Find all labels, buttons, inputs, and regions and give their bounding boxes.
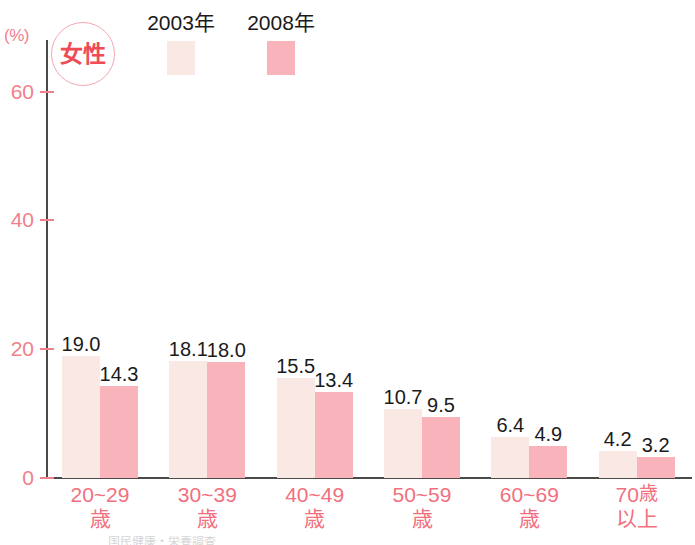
bar: 4.2 xyxy=(599,451,637,478)
category-label-line2: 歳 xyxy=(155,508,259,530)
bar: 18.0 xyxy=(207,362,245,478)
bar-group: 18.118.0 xyxy=(169,40,245,478)
category-label-line1: 40~49 xyxy=(285,483,344,506)
category-label-line2: 歳 xyxy=(477,508,581,530)
category-label-line1: 70 xyxy=(615,484,638,506)
bar: 18.1 xyxy=(169,361,207,478)
bar: 6.4 xyxy=(491,437,529,478)
bar: 9.5 xyxy=(422,417,460,478)
source-footnote: 国民健康・栄養調査 xyxy=(108,536,216,545)
legend-label-2008: 2008年 xyxy=(233,12,329,33)
chart-container: (%) 女性 2003年 2008年 0204060 19.014.318.11… xyxy=(0,0,695,545)
bar: 10.7 xyxy=(384,409,422,478)
bar: 3.2 xyxy=(637,457,675,478)
bar-value-label: 3.2 xyxy=(642,435,670,455)
bar-value-label: 19.0 xyxy=(62,334,101,354)
bar-group: 10.79.5 xyxy=(384,40,460,478)
bar-value-label: 14.3 xyxy=(100,364,139,384)
category-label-suffix: 歳 xyxy=(639,483,658,504)
category-label-line1: 50~59 xyxy=(393,483,452,506)
y-axis-tick-label: 40 xyxy=(0,209,34,230)
category-label-line2: 歳 xyxy=(48,508,152,530)
x-axis-category-label: 20~29歳 xyxy=(48,484,152,530)
x-axis-category-label: 50~59歳 xyxy=(370,484,474,530)
bar: 14.3 xyxy=(100,386,138,478)
category-label-line1: 30~39 xyxy=(178,483,237,506)
y-axis-unit-label: (%) xyxy=(4,26,29,46)
bar-value-label: 6.4 xyxy=(496,415,524,435)
bar-value-label: 9.5 xyxy=(427,395,455,415)
category-label-line2: 以上 xyxy=(585,508,689,530)
x-axis-category-label: 60~69歳 xyxy=(477,484,581,530)
y-axis-tick-label: 60 xyxy=(0,81,34,102)
category-label-line2: 歳 xyxy=(370,508,474,530)
y-axis-tick-label: 0 xyxy=(0,467,34,488)
y-axis-tick-label: 20 xyxy=(0,338,34,359)
bar: 13.4 xyxy=(315,392,353,478)
bar: 4.9 xyxy=(529,446,567,478)
category-label-line2: 歳 xyxy=(263,508,367,530)
bar-group: 4.23.2 xyxy=(599,40,675,478)
bar-group: 15.513.4 xyxy=(277,40,353,478)
bar-group: 19.014.3 xyxy=(62,40,138,478)
plot-area: 19.014.318.118.015.513.410.79.56.44.94.2… xyxy=(48,40,692,478)
x-axis-category-label: 40~49歳 xyxy=(263,484,367,530)
x-axis-category-label: 30~39歳 xyxy=(155,484,259,530)
bar-value-label: 4.9 xyxy=(534,424,562,444)
x-axis-category-label: 70歳以上 xyxy=(585,484,689,530)
category-label-line1: 20~29 xyxy=(71,483,130,506)
bar-value-label: 15.5 xyxy=(276,356,315,376)
bar-value-label: 10.7 xyxy=(384,387,423,407)
bar: 15.5 xyxy=(277,378,315,478)
category-label-line1: 60~69 xyxy=(500,483,559,506)
bar-value-label: 13.4 xyxy=(314,370,353,390)
bar-value-label: 18.1 xyxy=(169,339,208,359)
bar: 19.0 xyxy=(62,356,100,478)
bar-value-label: 4.2 xyxy=(604,429,632,449)
legend-label-2003: 2003年 xyxy=(133,12,229,33)
bar-group: 6.44.9 xyxy=(491,40,567,478)
bar-value-label: 18.0 xyxy=(207,340,246,360)
